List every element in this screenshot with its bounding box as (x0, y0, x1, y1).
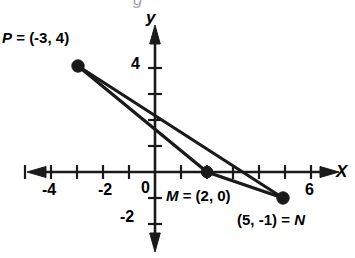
point-label-P: P = (-3, 4) (2, 30, 69, 45)
y-tick-label-4: 4 (131, 56, 140, 72)
x-tick-label-neg4: -4 (42, 182, 56, 198)
y-axis-label: y (146, 9, 155, 26)
x-axis-label: X (336, 163, 347, 180)
point-M (201, 166, 213, 178)
point-label-M-coords: (2, 0) (196, 187, 231, 204)
x-tick-label-6: 6 (305, 182, 314, 198)
point-label-N-equals: = (277, 211, 294, 228)
x-tick-label-neg2: -2 (98, 182, 112, 198)
point-N (277, 192, 289, 204)
point-label-M-name: M (166, 187, 179, 204)
point-label-N-name: N (294, 211, 305, 228)
origin-label: 0 (141, 180, 150, 196)
point-label-P-coords: (-3, 4) (29, 29, 69, 46)
y-tick-label-neg2: -2 (120, 209, 134, 225)
y-axis-top-arrowhead (150, 25, 161, 44)
x-axis-left-arrowhead (27, 167, 46, 178)
point-label-M-equals: = (179, 187, 196, 204)
point-label-P-name: P (2, 29, 12, 46)
point-label-P-equals: = (12, 29, 29, 46)
y-axis-bottom-arrowhead (150, 233, 161, 252)
point-label-N: (5, -1) = N (237, 212, 305, 227)
point-P (72, 60, 84, 72)
point-label-N-coords: (5, -1) (237, 211, 277, 228)
coordinate-plane-figure: g (0, 0, 355, 258)
point-label-M: M = (2, 0) (166, 188, 231, 203)
